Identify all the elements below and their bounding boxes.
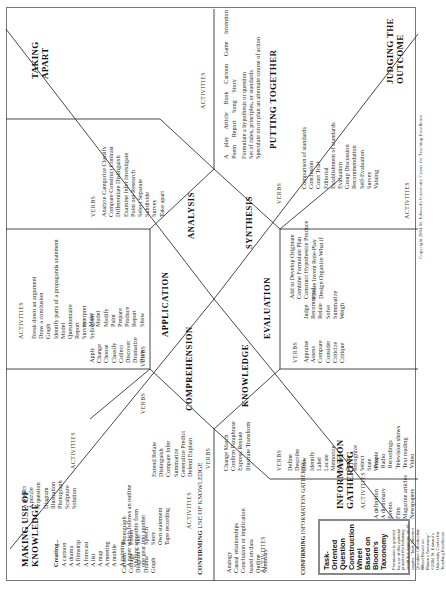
activity: Own statement bbox=[156, 508, 163, 545]
judging-title: JUDGING THE OUTCOME bbox=[385, 18, 405, 84]
activity: Draw a conclusion bbox=[37, 239, 44, 339]
verb: Compare Infer bbox=[164, 431, 171, 477]
title-line: TAKING bbox=[30, 41, 40, 79]
verb: Describe bbox=[293, 445, 300, 471]
verb: Criticize bbox=[331, 327, 338, 363]
activity: Photograph bbox=[56, 480, 63, 509]
title-line: JUDGING THE bbox=[385, 18, 395, 84]
activity: Conclusion or implication bbox=[239, 508, 246, 573]
title-box: Task- Oriented Question Construction Whe… bbox=[318, 519, 410, 575]
comprehension-ext-verbs: Extend Relate Distinguish Compare Infer … bbox=[150, 431, 193, 477]
activity: A painting bbox=[118, 485, 125, 567]
verb: Judge bbox=[302, 283, 309, 319]
verb: Appraise bbox=[302, 327, 309, 363]
activity: Cartoon bbox=[222, 64, 229, 84]
activity: Causal relationships bbox=[232, 508, 239, 573]
activity: Questionnaire bbox=[66, 239, 73, 339]
verb: Report bbox=[130, 306, 137, 327]
verb: Change Match bbox=[222, 421, 229, 471]
verb: Memorize bbox=[329, 445, 336, 471]
activity: Establishment of standards bbox=[329, 122, 336, 189]
verb: Add to Develop Originate bbox=[288, 221, 295, 299]
verb: Name bbox=[336, 445, 343, 471]
verb: Confirm Paraphrase bbox=[229, 421, 236, 471]
activity: Analogy bbox=[225, 508, 232, 573]
putting-together-title: PUTTING TOGETHER bbox=[268, 50, 278, 149]
activity: Illustration bbox=[49, 480, 56, 509]
putting-together-lines: Formulate a hypothesis or question Set o… bbox=[240, 37, 262, 159]
verb: Consider bbox=[324, 327, 331, 363]
verb: Subdivide bbox=[143, 146, 150, 217]
verb: Identify bbox=[308, 445, 315, 471]
activity: A dictionary bbox=[379, 475, 386, 520]
level-evaluation: EVALUATION bbox=[262, 277, 272, 339]
activity: Film bbox=[394, 475, 401, 520]
activity: Evaluation bbox=[336, 122, 343, 189]
activities-label: ACTIVITIES bbox=[18, 302, 24, 339]
level-comprehension: COMPREHENSION bbox=[184, 326, 194, 411]
verbs-label-analysis: VERBS bbox=[90, 196, 96, 217]
application-verbs: Apply Change Choose Classify Collect Dis… bbox=[88, 337, 146, 363]
confirming-info-activities: Analogy Causal relationships Conclusion … bbox=[225, 508, 268, 573]
activity: Sculpture bbox=[63, 480, 70, 509]
activities-label: ACTIVITIES bbox=[404, 182, 410, 219]
verb: Classify bbox=[110, 337, 117, 363]
activity: A question bbox=[34, 480, 41, 509]
activity: Radio bbox=[379, 424, 386, 469]
verb: Compare bbox=[316, 327, 323, 363]
activity: Recommendation bbox=[350, 122, 357, 189]
level-synthesis: SYNTHESIS bbox=[244, 196, 254, 249]
activity: Events bbox=[386, 475, 393, 520]
verb: Assess bbox=[309, 327, 316, 363]
verbs-label-knowledge: VERBS bbox=[276, 450, 282, 471]
activity: Editorial bbox=[322, 122, 329, 189]
confirming-info-header: CONFIRMING INFORMATION GATHERING bbox=[300, 460, 306, 575]
header-rest: USE OF KNOWLEDGE bbox=[196, 462, 203, 530]
application-verbs-col2: Interpret Make Model Modify Paint Prepar… bbox=[80, 306, 145, 327]
verb: Examine Infer Investigate bbox=[122, 146, 129, 217]
verb: Locate bbox=[322, 445, 329, 471]
activity: Story bbox=[230, 79, 237, 92]
activity: Shifting smoothly from bbox=[132, 485, 139, 567]
making-use-activities-col2: A project A puzzle A question Diagram Il… bbox=[20, 480, 78, 509]
activity: Graph bbox=[149, 551, 156, 573]
activity: Summary bbox=[261, 508, 268, 573]
verb: Define bbox=[286, 445, 293, 471]
activity: one gear into another bbox=[139, 485, 146, 567]
header-bold: CONFIRMING bbox=[196, 530, 203, 575]
activity: Valuing bbox=[372, 122, 379, 189]
activity: A project bbox=[20, 480, 27, 509]
verb: Summarize bbox=[172, 431, 179, 477]
activities-label: ACTIVITIES bbox=[70, 432, 76, 469]
activity: Model bbox=[59, 239, 66, 339]
activity: Identify parts of a propaganda statement bbox=[52, 239, 59, 339]
activity: Graph bbox=[44, 239, 51, 339]
verb: Draw bbox=[138, 337, 145, 363]
activity: A paper which follows an outline bbox=[125, 485, 132, 567]
verb: Analyze Categorize Classify bbox=[100, 146, 107, 217]
verb: Recognize bbox=[351, 445, 358, 471]
activity: A play bbox=[222, 137, 229, 159]
activity: Diagram bbox=[42, 480, 49, 509]
activity: Survey bbox=[365, 122, 372, 189]
verb: Summarize bbox=[331, 283, 338, 319]
verb: Produce bbox=[123, 306, 130, 327]
level-knowledge: KNOWLEDGE bbox=[240, 344, 250, 407]
activity: Group Discussion bbox=[343, 122, 350, 189]
verb: Critique bbox=[338, 327, 345, 363]
verb: Point out Research bbox=[129, 146, 136, 217]
information-gathering-activities: A definition A dictionary Events Film Ma… bbox=[372, 424, 415, 519]
title-line: APART bbox=[40, 41, 50, 79]
verb: Collect bbox=[117, 337, 124, 363]
activity: Set of rules, principles, or standards bbox=[247, 37, 254, 159]
activity: Comparison of standards bbox=[300, 122, 307, 189]
permission-text: Permission is granted for use of this ma… bbox=[392, 524, 446, 570]
verbs-label-synthesis: VERBS bbox=[276, 183, 282, 204]
activity: Video bbox=[408, 424, 415, 469]
comprehension-verbs: Change Match Confirm Paraphrase Express … bbox=[222, 421, 251, 471]
verb: Select Separate bbox=[136, 146, 143, 217]
activity: Tape recording bbox=[163, 508, 170, 545]
analysis-verbs: Analyze Categorize Classify Compare Cons… bbox=[100, 146, 165, 217]
activity: Formulate a hypothesis or question bbox=[240, 37, 247, 159]
